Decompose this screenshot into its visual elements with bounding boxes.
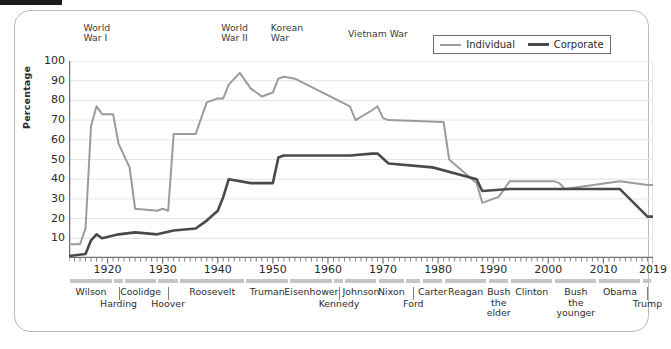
president-term-bar (511, 279, 553, 283)
x-tick-1980: 1980 (418, 263, 458, 276)
president-term-bar (334, 279, 343, 283)
president-term-bar (445, 279, 487, 283)
president-term-bar (290, 279, 332, 283)
annotation-vietnam-war: Vietnam War (348, 29, 408, 39)
president-term-bar (643, 279, 652, 283)
president-term-bar (125, 279, 156, 283)
president-label: Roosevelt (182, 287, 242, 298)
chart-svg (69, 61, 653, 265)
president-label: Coolidge (111, 287, 171, 298)
line-swatch-corporate-icon (528, 43, 549, 46)
president-term-bar (555, 279, 597, 283)
president-label: Ford (383, 299, 443, 310)
x-tick-1960: 1960 (308, 263, 348, 276)
y-tick-70: 70 (21, 113, 65, 126)
annotation-korean-war: Korean War (271, 23, 303, 44)
legend-item-corporate: Corporate (528, 39, 604, 50)
y-tick-30: 30 (21, 192, 65, 205)
president-term-bar (599, 279, 641, 283)
president-timeline: WilsonHardingCoolidgeHooverRooseveltTrum… (15, 279, 671, 349)
chart-plot-area (69, 61, 653, 258)
president-term-bar (114, 279, 123, 283)
y-tick-100: 100 (21, 54, 65, 67)
chart-legend: Individual Corporate (433, 35, 611, 54)
president-label: Trump (617, 299, 671, 310)
legend-label-individual: Individual (466, 39, 515, 50)
annotation-world-war-ii: World War II (221, 23, 248, 44)
x-tick-2000: 2000 (528, 263, 568, 276)
line-series-corporate (69, 154, 653, 256)
president-label: Kennedy (309, 299, 369, 310)
president-term-bar (158, 279, 178, 283)
president-label: Obama (590, 287, 650, 298)
y-tick-40: 40 (21, 172, 65, 185)
president-term-bar (70, 279, 112, 283)
y-tick-90: 90 (21, 74, 65, 87)
y-tick-80: 80 (21, 93, 65, 106)
president-term-bar (379, 279, 404, 283)
scan-artifact-bar (0, 0, 62, 5)
president-term-bar (180, 279, 244, 283)
x-tick-1950: 1950 (253, 263, 293, 276)
president-term-bar (423, 279, 443, 283)
x-tick-1930: 1930 (143, 263, 183, 276)
x-tick-2010: 2010 (583, 263, 623, 276)
x-tick-1940: 1940 (198, 263, 238, 276)
annotation-world-war-i: World War I (84, 23, 111, 44)
president-label: Hoover (138, 299, 198, 310)
president-term-bar (246, 279, 288, 283)
x-tick-1920: 1920 (88, 263, 128, 276)
y-tick-60: 60 (21, 133, 65, 146)
x-tick-2019: 2019 (633, 263, 671, 276)
legend-label-corporate: Corporate (554, 39, 604, 50)
x-tick-1990: 1990 (473, 263, 513, 276)
x-axis-ticks: 1920193019401950196019701980199020002010… (15, 263, 671, 279)
y-axis-ticks: 100908070605040302010 (15, 11, 65, 271)
y-tick-50: 50 (21, 153, 65, 166)
president-term-bar (489, 279, 509, 283)
president-term-bar (406, 279, 420, 283)
legend-item-individual: Individual (440, 39, 515, 50)
y-tick-20: 20 (21, 212, 65, 225)
president-term-bar (345, 279, 376, 283)
x-tick-1970: 1970 (363, 263, 403, 276)
y-tick-10: 10 (21, 231, 65, 244)
line-swatch-individual-icon (440, 44, 461, 46)
chart-card: Percentage 100908070605040302010 1920193… (14, 10, 649, 332)
